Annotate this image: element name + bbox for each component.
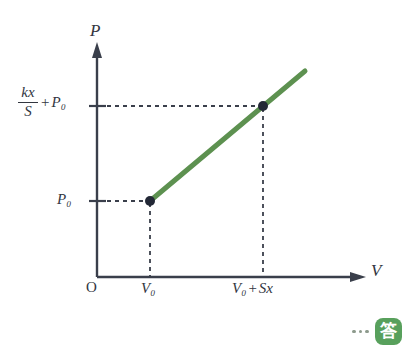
plot-canvas [0, 0, 416, 353]
fraction-denominator: S [22, 103, 34, 120]
data-line-isobaric-rise [150, 71, 305, 201]
x-tick-label-v0: V₀ [141, 281, 155, 296]
plus-sign: + [248, 280, 256, 296]
y-axis-label: P [90, 22, 100, 39]
data-point-start [145, 196, 155, 206]
fraction-numerator: kx [19, 85, 36, 102]
origin-label: O [86, 280, 97, 295]
fraction-kx-over-s: kx S [18, 85, 38, 120]
answer-badge-cluster[interactable]: 答 [352, 318, 402, 345]
y-tick-label-p0-term: P₀ [51, 95, 65, 110]
data-point-end [258, 101, 268, 111]
x-tick-label-v0-term: V₀ [232, 280, 246, 296]
x-tick-label-v0-plus-sx: V₀+Sx [232, 281, 273, 296]
y-axis [92, 42, 102, 277]
pv-diagram-figure: P V O kx S + P₀ P₀ V₀ V₀+Sx 答 [0, 0, 416, 353]
x-axis-label: V [371, 262, 381, 279]
answer-badge-icon[interactable]: 答 [375, 318, 402, 345]
plus-sign: + [41, 95, 49, 110]
y-tick-label-kx-over-s-plus-p0: kx S + P₀ [18, 85, 66, 120]
ellipsis-icon [352, 330, 369, 334]
x-tick-label-sx-term: Sx [259, 280, 273, 296]
y-tick-label-p0: P₀ [57, 192, 71, 207]
